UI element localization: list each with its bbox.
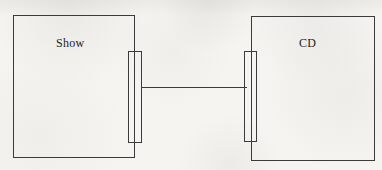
component-label-cd: CD xyxy=(299,37,316,49)
port-icon-show xyxy=(128,51,142,143)
connector-line xyxy=(141,87,247,88)
diagram-canvas: Show CD xyxy=(0,0,382,170)
component-label-show: Show xyxy=(56,37,85,49)
port-icon-cd xyxy=(244,51,257,142)
